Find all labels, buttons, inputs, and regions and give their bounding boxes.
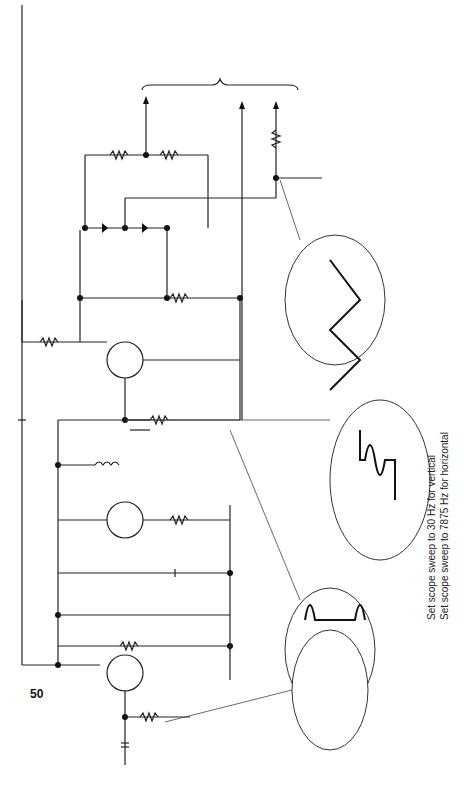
note-2: Set scope sweep to 7875 Hz for horizonta… bbox=[439, 432, 450, 620]
page-number: 50 bbox=[30, 687, 44, 701]
scope-3 bbox=[330, 400, 430, 560]
schematic: 50 Set scope sweep to 30 Hz for vertical… bbox=[0, 0, 464, 807]
q2-transistor bbox=[107, 502, 143, 538]
q3-transistor bbox=[107, 342, 143, 378]
scope-1 bbox=[292, 630, 368, 750]
note-1: Set scope sweep to 30 Hz for vertical bbox=[426, 455, 437, 620]
q1-transistor bbox=[107, 655, 143, 691]
scope-4 bbox=[285, 235, 385, 365]
